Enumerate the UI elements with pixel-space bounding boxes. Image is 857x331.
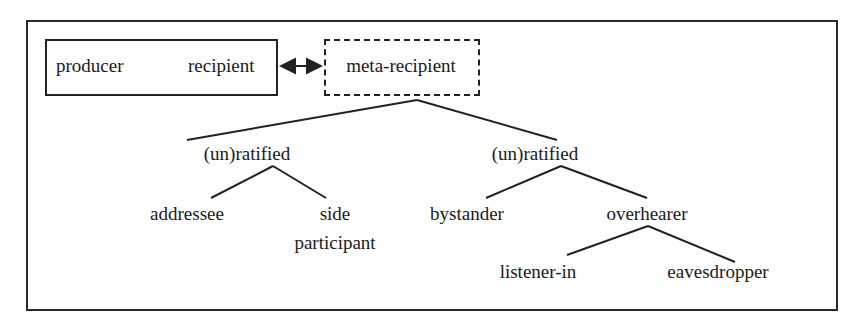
bystander-label: bystander bbox=[430, 203, 504, 225]
side-label: side bbox=[320, 203, 351, 225]
overhearer-label: overhearer bbox=[606, 203, 687, 225]
addressee-label: addressee bbox=[150, 203, 224, 225]
listener-in-label: listener-in bbox=[500, 261, 577, 283]
right-unratified-label: (un)ratified bbox=[492, 143, 579, 165]
diagram-canvas: producer recipient meta-recipient (un)ra… bbox=[0, 0, 857, 331]
participant-label: participant bbox=[294, 232, 375, 254]
eavesdropper-label: eavesdropper bbox=[667, 261, 768, 283]
left-unratified-label: (un)ratified bbox=[204, 143, 291, 165]
